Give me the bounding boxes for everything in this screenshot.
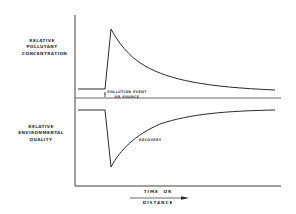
top-y-axis-label: RELATIVE POLLUTANT CONCENTRATION [22,38,62,57]
pollution-event-annotation: POLLUTION EVENT OR SOURCE [106,90,148,99]
top-ylabel-line-3: CONCENTRATION [22,51,62,57]
top-ylabel-line-2: POLLUTANT [22,44,62,50]
bottom-ylabel-line-2: ENVIRONMENTAL [16,130,66,136]
quality-curve [78,110,275,167]
x-axis-label-line-1: TIME OR [136,189,180,194]
recovery-annotation: RECOVERY [139,138,161,143]
event-label-line-1: POLLUTION EVENT [106,90,148,95]
diagram-canvas [0,0,296,214]
event-label-line-2: OR SOURCE [106,95,148,100]
bottom-y-axis-label: RELATIVE ENVIRONMENTAL QUALITY [16,124,66,143]
x-axis-label-line-2: DISTANCE [136,200,180,205]
pollutant-curve [78,29,275,90]
arrowhead-icon [181,196,189,199]
bottom-ylabel-line-3: QUALITY [16,137,66,143]
